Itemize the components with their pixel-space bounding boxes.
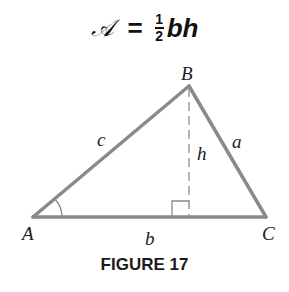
right-angle-marker — [172, 201, 189, 216]
vertex-label-b: B — [181, 63, 193, 84]
vertex-label-a: A — [20, 223, 34, 244]
angle-arc-a — [55, 199, 62, 216]
side-label-b: b — [145, 228, 155, 249]
vertex-label-c: C — [262, 223, 275, 244]
figure-caption: FIGURE 17 — [0, 255, 289, 275]
triangle-diagram: B A C c a b h — [0, 0, 289, 292]
altitude-label-h: h — [197, 143, 207, 164]
side-label-c: c — [97, 129, 106, 150]
side-c — [33, 86, 189, 217]
side-label-a: a — [232, 131, 242, 152]
